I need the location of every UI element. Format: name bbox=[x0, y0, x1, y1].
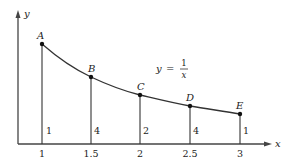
weight-e: 1 bbox=[243, 125, 249, 136]
x-tick-1-5: 1.5 bbox=[83, 148, 98, 159]
x-axis-arrow-icon bbox=[264, 142, 272, 147]
point-label-a: A bbox=[36, 30, 44, 41]
point-label-d: D bbox=[185, 92, 194, 103]
point-label-b: B bbox=[87, 63, 95, 74]
point-d bbox=[188, 104, 192, 108]
y-axis-label: y bbox=[23, 8, 30, 19]
x-tick-2: 2 bbox=[137, 148, 143, 159]
x-tick-2-5: 2.5 bbox=[182, 148, 197, 159]
point-label-c: C bbox=[137, 81, 145, 92]
function-equals: = bbox=[166, 63, 174, 74]
weight-d: 4 bbox=[193, 125, 199, 136]
x-tick-1: 1 bbox=[39, 148, 45, 159]
curve-1-over-x bbox=[42, 44, 240, 114]
x-tick-3: 3 bbox=[237, 148, 243, 159]
y-axis-arrow-icon bbox=[16, 10, 21, 18]
point-e bbox=[238, 112, 242, 116]
point-b bbox=[89, 75, 93, 79]
point-c bbox=[138, 93, 142, 97]
function-lhs: y bbox=[155, 63, 162, 74]
point-a bbox=[40, 42, 44, 46]
simpson-rule-diagram: y x A B C D E 1 4 2 4 1 1 1.5 2 2.5 3 y … bbox=[0, 0, 289, 164]
function-denominator: x bbox=[182, 70, 187, 80]
point-label-e: E bbox=[235, 100, 244, 111]
function-numerator: 1 bbox=[181, 58, 186, 68]
x-axis-label: x bbox=[275, 138, 281, 149]
weight-c: 2 bbox=[143, 125, 149, 136]
weight-a: 1 bbox=[46, 125, 52, 136]
weight-b: 4 bbox=[94, 125, 100, 136]
function-label: y = 1 x bbox=[155, 58, 188, 80]
